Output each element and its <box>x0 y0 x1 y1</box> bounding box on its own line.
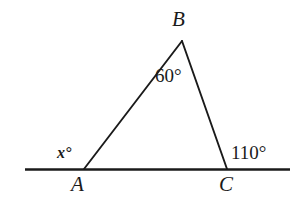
vertex-label-c: C <box>219 174 233 195</box>
vertex-label-a: A <box>71 174 84 195</box>
angle-label-at-c: 110° <box>231 143 266 162</box>
geometry-canvas <box>0 0 298 207</box>
segment-bc <box>182 41 227 169</box>
geometry-figure: B A C 60° x° 110° <box>0 0 298 207</box>
vertex-label-b: B <box>172 9 185 30</box>
angle-label-at-b: 60° <box>155 66 182 85</box>
angle-label-at-a: x° <box>57 145 71 161</box>
segment-ab <box>84 41 182 169</box>
